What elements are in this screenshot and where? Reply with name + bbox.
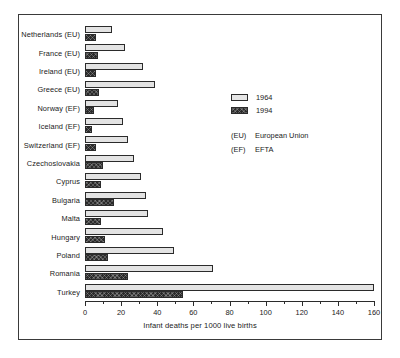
chart-row: Switzerland (EF): [85, 135, 374, 153]
bar-1964: [85, 265, 213, 272]
chart-row: Poland: [85, 246, 374, 264]
x-tick-minor: [356, 301, 357, 304]
x-tick-major: [157, 301, 158, 306]
bar-1994: [85, 291, 183, 298]
x-tick-major: [302, 301, 303, 306]
bar-1964: [85, 81, 155, 88]
bar-1964: [85, 26, 112, 33]
category-label: Malta: [61, 214, 80, 223]
bar-1964: [85, 247, 174, 254]
x-tick-minor: [248, 301, 249, 304]
bar-1994: [85, 89, 99, 96]
x-tick-label: 0: [83, 308, 87, 317]
legend-label-1964: 1964: [256, 93, 272, 102]
x-tick-major: [374, 301, 375, 306]
abbreviation-eu: (EU) European Union: [231, 128, 308, 142]
chart-row: Hungary: [85, 227, 374, 245]
chart-row: Greece (EU): [85, 80, 374, 98]
bar-1994: [85, 162, 103, 169]
legend-swatch-1964: [231, 94, 248, 101]
chart-row: Cyprus: [85, 172, 374, 190]
bar-1994: [85, 199, 114, 206]
category-label: Czechoslovakia: [27, 158, 80, 167]
chart-row: Turkey: [85, 283, 374, 301]
chart-row: Iceland (EF): [85, 117, 374, 135]
bar-1964: [85, 192, 146, 199]
category-label: Hungary: [51, 232, 80, 241]
category-label: Ireland (EU): [39, 66, 80, 75]
abbreviation-eu-text: European Union: [255, 131, 308, 140]
category-label: Bulgaria: [52, 195, 80, 204]
chart-row: Netherlands (EU): [85, 25, 374, 43]
x-tick-label: 160: [368, 308, 380, 317]
category-label: Turkey: [57, 287, 80, 296]
x-tick-label: 20: [117, 308, 125, 317]
x-tick-minor: [175, 301, 176, 304]
category-label: Switzerland (EF): [24, 140, 80, 149]
category-label: Norway (EF): [37, 103, 80, 112]
plot-area: Netherlands (EU)France (EU)Ireland (EU)G…: [85, 25, 374, 301]
bar-1994: [85, 107, 94, 114]
category-label: Iceland (EF): [39, 122, 80, 131]
bar-1994: [85, 144, 96, 151]
x-tick-major: [338, 301, 339, 306]
x-tick-minor: [211, 301, 212, 304]
category-label: Greece (EU): [37, 85, 80, 94]
category-label: France (EU): [39, 48, 80, 57]
category-label: Netherlands (EU): [21, 30, 80, 39]
bar-1964: [85, 44, 125, 51]
legend-label-1994: 1994: [256, 106, 272, 115]
bar-1964: [85, 173, 141, 180]
abbreviation-ef-text: EFTA: [255, 145, 273, 154]
x-tick-label: 100: [259, 308, 271, 317]
chart-row: Czechoslovakia: [85, 154, 374, 172]
x-tick-minor: [284, 301, 285, 304]
legend-item-1994: 1994: [231, 104, 272, 117]
chart-row: Romania: [85, 264, 374, 282]
abbreviation-notes: (EU) European Union (EF) EFTA: [231, 128, 308, 156]
chart-legend: 1964 1994: [231, 91, 272, 117]
x-tick-major: [230, 301, 231, 306]
x-tick-major: [85, 301, 86, 306]
bar-1994: [85, 218, 101, 225]
bar-1964: [85, 136, 128, 143]
legend-item-1964: 1964: [231, 91, 272, 104]
bar-1994: [85, 52, 98, 59]
bar-1994: [85, 70, 96, 77]
bar-1994: [85, 254, 108, 261]
x-tick-label: 80: [225, 308, 233, 317]
x-tick-major: [121, 301, 122, 306]
abbreviation-ef-key: (EF): [231, 145, 255, 154]
x-tick-label: 60: [189, 308, 197, 317]
chart-row: Ireland (EU): [85, 62, 374, 80]
bar-1994: [85, 273, 128, 280]
chart-row: Norway (EF): [85, 99, 374, 117]
legend-swatch-1994: [231, 107, 248, 114]
bar-1964: [85, 228, 163, 235]
x-tick-minor: [139, 301, 140, 304]
category-label: Poland: [56, 250, 80, 259]
chart-row: Bulgaria: [85, 191, 374, 209]
bar-1964: [85, 210, 148, 217]
category-label: Cyprus: [56, 177, 80, 186]
x-tick-minor: [103, 301, 104, 304]
x-axis-title: Infant deaths per 1000 live births: [19, 321, 381, 330]
bar-1994: [85, 34, 96, 41]
abbreviation-ef: (EF) EFTA: [231, 142, 308, 156]
bar-1994: [85, 181, 101, 188]
bar-1964: [85, 284, 374, 291]
abbreviation-eu-key: (EU): [231, 131, 255, 140]
bar-1964: [85, 63, 143, 70]
category-label: Romania: [50, 269, 80, 278]
x-tick-minor: [320, 301, 321, 304]
chart-figure: Netherlands (EU)France (EU)Ireland (EU)G…: [18, 14, 382, 340]
bar-1964: [85, 100, 118, 107]
x-tick-major: [193, 301, 194, 306]
bar-1964: [85, 118, 123, 125]
x-tick-label: 140: [332, 308, 344, 317]
bar-1964: [85, 155, 134, 162]
chart-row: Malta: [85, 209, 374, 227]
chart-row: France (EU): [85, 43, 374, 61]
bar-1994: [85, 236, 105, 243]
bar-1994: [85, 126, 92, 133]
